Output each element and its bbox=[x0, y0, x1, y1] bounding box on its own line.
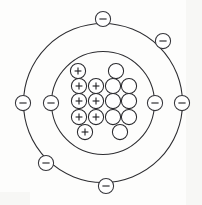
atom-svg-canvas bbox=[0, 0, 202, 205]
nucleus-neutron bbox=[108, 63, 123, 78]
electron-outer-left bbox=[15, 95, 30, 110]
nucleus-proton bbox=[71, 109, 86, 124]
neutron-circle bbox=[121, 109, 136, 124]
electron-inner-left bbox=[43, 95, 58, 110]
bohr-atom-diagram bbox=[0, 0, 202, 205]
nucleus-neutron bbox=[105, 78, 120, 93]
nucleus-proton bbox=[70, 63, 85, 78]
nucleus-neutron bbox=[121, 93, 136, 108]
paper-smudge-bottom-left bbox=[0, 192, 30, 205]
neutron-circle bbox=[105, 109, 120, 124]
nucleus-neutron bbox=[121, 78, 136, 93]
electron-inner-right bbox=[147, 95, 162, 110]
neutron-circle bbox=[108, 63, 123, 78]
nucleus-proton bbox=[71, 78, 86, 93]
nucleus-neutron bbox=[105, 109, 120, 124]
electron-outer-top bbox=[95, 11, 110, 26]
nucleus-layer bbox=[70, 63, 136, 139]
neutron-circle bbox=[105, 93, 120, 108]
electron-outer-lower-left bbox=[38, 155, 53, 170]
nucleus-proton bbox=[88, 78, 103, 93]
neutron-circle bbox=[105, 78, 120, 93]
nucleus-neutron bbox=[121, 109, 136, 124]
neutron-circle bbox=[121, 78, 136, 93]
electron-outer-bottom bbox=[98, 178, 113, 193]
nucleus-proton bbox=[71, 93, 86, 108]
nucleus-neutron bbox=[112, 124, 127, 139]
electron-outer-upper-right bbox=[155, 33, 170, 48]
nucleus-proton bbox=[88, 109, 103, 124]
nucleus-proton bbox=[77, 124, 92, 139]
nucleus-neutron bbox=[105, 93, 120, 108]
neutron-circle bbox=[112, 124, 127, 139]
neutron-circle bbox=[121, 93, 136, 108]
nucleus-proton bbox=[88, 93, 103, 108]
electron-outer-right bbox=[174, 95, 189, 110]
